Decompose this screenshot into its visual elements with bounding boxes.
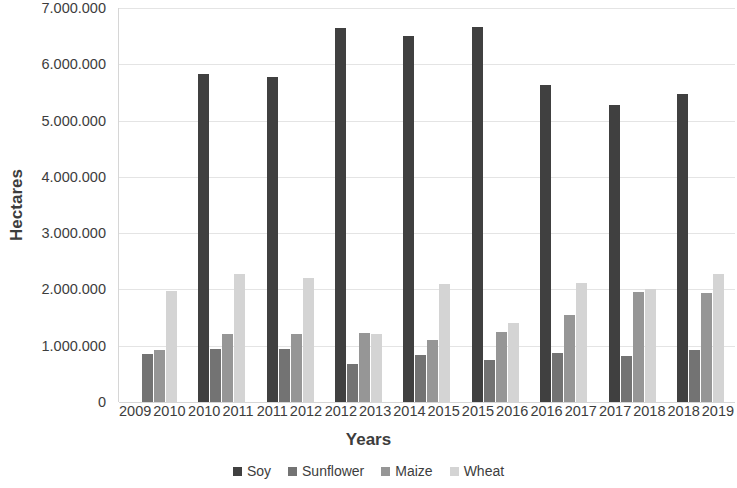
bar[interactable]	[496, 332, 507, 402]
bar-group	[667, 8, 735, 402]
x-axis-tick-label: 20092010	[118, 404, 187, 419]
y-axis-tick-label: 3.000.000	[41, 225, 106, 241]
x-axis-tick-label: 20182019	[667, 404, 736, 419]
bar-group	[256, 8, 324, 402]
bar[interactable]	[508, 323, 519, 402]
bar[interactable]	[222, 334, 233, 402]
bar[interactable]	[303, 278, 314, 402]
bar[interactable]	[142, 354, 153, 402]
bar[interactable]	[713, 274, 724, 402]
legend-swatch-icon	[450, 467, 459, 476]
x-axis-tick-year: 2012	[289, 404, 323, 419]
x-axis-tick-label: 20142015	[392, 404, 461, 419]
bar[interactable]	[210, 349, 221, 402]
bar[interactable]	[677, 94, 688, 402]
legend-item-wheat[interactable]: Wheat	[450, 463, 504, 479]
y-axis-title: Hectares	[2, 0, 32, 410]
x-axis-tick-label: 20112012	[255, 404, 324, 419]
x-axis-tick-year: 2019	[701, 404, 735, 419]
bar[interactable]	[371, 334, 382, 402]
y-axis-tick-label: 2.000.000	[41, 281, 106, 297]
bar[interactable]	[166, 291, 177, 402]
bar[interactable]	[403, 36, 414, 402]
bar-group	[598, 8, 666, 402]
x-axis-tick-year: 2016	[495, 404, 529, 419]
x-axis-tick-year: 2015	[427, 404, 461, 419]
x-axis-title: Years	[0, 430, 737, 450]
x-axis-tick-label: 20122013	[324, 404, 393, 419]
bar[interactable]	[472, 27, 483, 402]
bar[interactable]	[540, 85, 551, 402]
x-axis-tick-year: 2009	[118, 404, 152, 419]
x-axis-tick-year: 2017	[598, 404, 632, 419]
legend-item-label: Maize	[395, 463, 432, 479]
x-axis-tick-label: 20172018	[598, 404, 667, 419]
y-axis-tick-label: 6.000.000	[41, 56, 106, 72]
legend-item-soy[interactable]: Soy	[233, 463, 271, 479]
bar[interactable]	[701, 293, 712, 402]
legend-swatch-icon	[233, 467, 242, 476]
bar[interactable]	[427, 340, 438, 402]
x-axis-tick-year: 2010	[187, 404, 221, 419]
bar-group	[324, 8, 392, 402]
bar[interactable]	[279, 349, 290, 402]
x-axis-tick-year: 2012	[324, 404, 358, 419]
plot-wrapper: 01.000.0002.000.0003.000.0004.000.0005.0…	[32, 8, 735, 410]
legend-swatch-icon	[381, 467, 390, 476]
x-axis-tick-year: 2013	[358, 404, 392, 419]
legend-swatch-icon	[288, 467, 297, 476]
y-axis-tick-label: 1.000.000	[41, 338, 106, 354]
x-axis-tick-year: 2011	[221, 404, 254, 419]
bar[interactable]	[576, 283, 587, 402]
y-axis-tick-label: 5.000.000	[41, 113, 106, 129]
bar-group	[461, 8, 529, 402]
legend-item-label: Wheat	[464, 463, 504, 479]
x-axis-tick-labels: 2009201020102011201120122012201320142015…	[118, 404, 735, 419]
legend-item-label: Soy	[247, 463, 271, 479]
bar[interactable]	[154, 350, 165, 402]
legend-item-sunflower[interactable]: Sunflower	[288, 463, 364, 479]
x-axis-tick-year: 2017	[564, 404, 598, 419]
bar[interactable]	[415, 355, 426, 402]
bar[interactable]	[234, 274, 245, 402]
plot-area	[118, 8, 735, 402]
x-axis-tick-year: 2016	[529, 404, 563, 419]
bar[interactable]	[552, 353, 563, 402]
bar[interactable]	[689, 350, 700, 402]
bar[interactable]	[609, 105, 620, 402]
bar-group	[119, 8, 187, 402]
x-axis-tick-year: 2010	[152, 404, 186, 419]
chart-legend: SoySunflowerMaizeWheat	[0, 463, 737, 479]
bar[interactable]	[291, 334, 302, 402]
legend-item-label: Sunflower	[302, 463, 364, 479]
x-axis-tick-label: 20102011	[187, 404, 256, 419]
bar-chart: Hectares 01.000.0002.000.0003.000.0004.0…	[0, 0, 737, 488]
bar[interactable]	[267, 77, 278, 402]
x-axis-tick-year: 2018	[667, 404, 701, 419]
y-axis-tick-label: 7.000.000	[41, 0, 106, 16]
bar-group	[187, 8, 255, 402]
bar[interactable]	[564, 315, 575, 402]
x-axis-tick-label: 20152016	[461, 404, 530, 419]
y-axis-tick-label: 0	[98, 394, 106, 410]
bar[interactable]	[335, 28, 346, 402]
bar[interactable]	[198, 74, 209, 402]
bar-group	[393, 8, 461, 402]
bar-group	[530, 8, 598, 402]
x-axis-tick-label: 20162017	[529, 404, 598, 419]
bar[interactable]	[359, 333, 370, 402]
x-axis-tick-year: 2011	[256, 404, 289, 419]
bar[interactable]	[347, 364, 358, 402]
bar[interactable]	[633, 292, 644, 402]
x-axis-tick-year: 2014	[392, 404, 426, 419]
y-axis-tick-labels: 01.000.0002.000.0003.000.0004.000.0005.0…	[32, 8, 112, 402]
bar[interactable]	[621, 356, 632, 402]
bar[interactable]	[645, 289, 656, 402]
y-axis-title-label: Hectares	[7, 169, 27, 241]
bars-layer	[119, 8, 735, 402]
legend-item-maize[interactable]: Maize	[381, 463, 432, 479]
y-axis-tick-label: 4.000.000	[41, 169, 106, 185]
x-axis-tick-year: 2015	[461, 404, 495, 419]
bar[interactable]	[484, 360, 495, 402]
bar[interactable]	[439, 284, 450, 402]
